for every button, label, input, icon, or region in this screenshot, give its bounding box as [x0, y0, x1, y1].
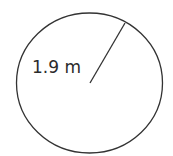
circle [17, 13, 163, 153]
radius-line [90, 23, 125, 83]
radius-label: 1.9 m [32, 57, 81, 77]
circle-diagram: 1.9 m [0, 0, 173, 156]
